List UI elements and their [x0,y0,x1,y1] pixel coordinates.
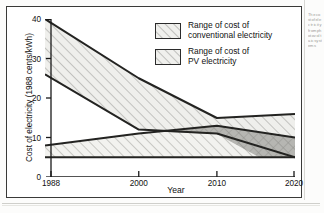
y-tick-30: 30 [13,54,41,63]
legend-item-pv: Range of cost of PV electricity [155,47,297,71]
y-tick-0: 0 [13,173,41,182]
legend-label-conventional-line2: conventional electricity [188,30,296,40]
adjacent-column-text: Th e co st of el ec tr ic it y fr om ph … [308,12,322,132]
column-divider-rule [304,0,305,200]
page-background: Th e co st of el ec tr ic it y fr om ph … [0,0,324,213]
chart-legend: Range of cost of conventional electricit… [155,21,297,77]
footer-rule-bottom [2,205,320,206]
x-axis-ticks [51,171,294,177]
y-tick-10: 10 [13,133,41,142]
legend-swatch-pv-icon [155,49,181,65]
legend-label-conventional: Range of cost of conventional electricit… [188,20,296,41]
y-axis-tick-labels: 0 10 20 30 40 [13,19,41,177]
legend-swatch-conventional-icon [155,23,181,39]
legend-label-conventional-line1: Range of cost of [188,20,296,30]
x-axis-label: Year [51,185,301,195]
y-tick-20: 20 [13,94,41,103]
legend-label-pv-line2: PV electricity [188,56,296,66]
y-tick-40: 40 [13,15,41,24]
footer-rule-top [2,203,320,204]
legend-item-conventional: Range of cost of conventional electricit… [155,21,297,45]
legend-label-pv: Range of cost of PV electricity [188,46,296,67]
legend-label-pv-line1: Range of cost of [188,46,296,56]
figure-frame: Cost of electricity (1988 cents/kWh) 0 1… [6,6,302,198]
